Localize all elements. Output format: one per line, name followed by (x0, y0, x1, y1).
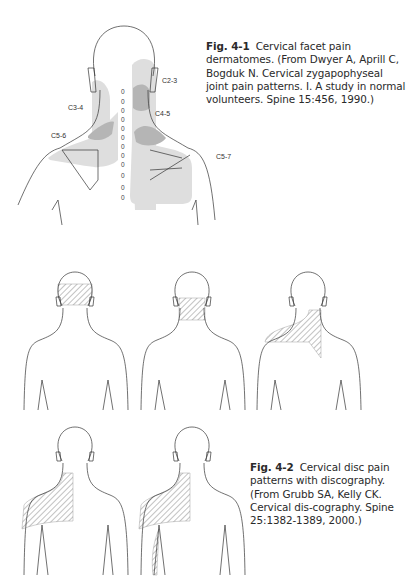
svg-text:0: 0 (121, 107, 125, 114)
svg-text:0: 0 (121, 116, 125, 123)
label-c2-3: C2-3 (162, 77, 177, 84)
svg-text:0: 0 (121, 134, 125, 141)
figure-4-2-panel-4 (22, 427, 128, 575)
figure-4-2-panel-3 (257, 272, 361, 410)
label-c5-7: C5-7 (216, 153, 231, 160)
svg-text:0: 0 (121, 161, 125, 168)
svg-text:0: 0 (121, 98, 125, 105)
figure-4-2-panel-5 (139, 427, 245, 575)
figure-4-2-panel-2 (141, 272, 245, 410)
label-c4-5: C4-5 (155, 110, 170, 117)
svg-text:0: 0 (121, 184, 125, 191)
svg-text:0: 0 (121, 172, 125, 179)
svg-text:0: 0 (121, 152, 125, 159)
spine-markers: 0 0 0 0 0 0 0 0 0 0 0 0 (121, 88, 125, 201)
svg-text:0: 0 (121, 194, 125, 201)
figure-4-1-illustration: 0 0 0 0 0 0 0 0 0 0 0 0 C2-3 C3-4 C4-5 C… (18, 26, 231, 225)
figure-4-2-panel-1 (24, 272, 128, 410)
figure-4-1-caption: Fig. 4-1Cervical facet pain dermatomes. … (206, 40, 406, 106)
figure-4-2-caption: Fig. 4-2Cervical disc pain patterns with… (250, 461, 400, 527)
label-c5-6: C5-6 (51, 132, 66, 139)
svg-text:0: 0 (121, 125, 125, 132)
svg-text:0: 0 (121, 143, 125, 150)
figure-4-2-number: Fig. 4-2 (250, 461, 294, 473)
label-c3-4: C3-4 (68, 104, 83, 111)
svg-text:0: 0 (121, 88, 125, 95)
figure-4-1-number: Fig. 4-1 (206, 40, 250, 52)
